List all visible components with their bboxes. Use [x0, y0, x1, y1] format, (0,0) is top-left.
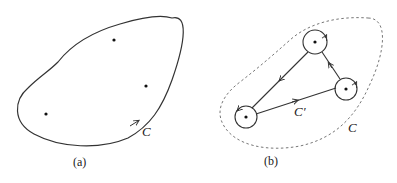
panel-a: C (a): [17, 16, 183, 169]
caption-a: (a): [73, 155, 86, 169]
caption-b: (b): [264, 154, 278, 168]
closed-contour-c: [17, 16, 183, 145]
segment-arrow-icon: [280, 76, 284, 80]
singular-point: [44, 112, 47, 115]
singular-point: [112, 38, 115, 41]
panel-b: C′ C (b): [220, 18, 383, 168]
dashed-outer-contour-c: [220, 18, 383, 149]
singular-point: [344, 87, 347, 90]
singular-point: [244, 115, 247, 118]
singular-point: [313, 40, 316, 43]
contour-label-c: C: [142, 124, 151, 139]
segment-right-to-top: [322, 52, 340, 79]
direction-arrow-icon: [130, 121, 138, 126]
figure-canvas: C (a) C′ C (b): [0, 0, 397, 183]
contour-label-c: C: [348, 120, 357, 135]
contour-label-c-prime: C′: [294, 104, 306, 119]
singular-point: [144, 84, 147, 87]
circle-arrow-icon: [238, 108, 240, 110]
